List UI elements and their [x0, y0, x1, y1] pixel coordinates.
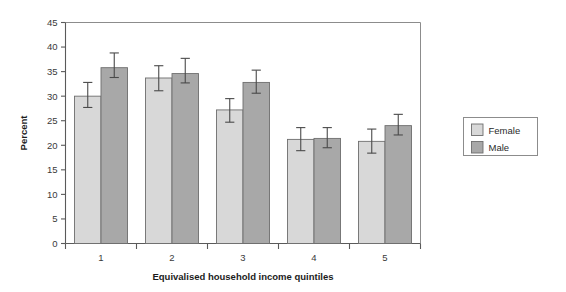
legend-swatch-female [472, 124, 484, 136]
bar-female-q3 [217, 110, 244, 244]
bar-female-q5 [359, 141, 386, 243]
y-tick-label: 35 [47, 66, 58, 77]
y-tick-label: 25 [47, 115, 58, 126]
legend: FemaleMale [464, 118, 538, 156]
y-tick-label: 40 [47, 41, 58, 52]
bar-female-q4 [288, 139, 315, 243]
x-axis-title: Equivalised household income quintiles [152, 271, 333, 282]
y-tick-label: 20 [47, 140, 58, 151]
bar-female-q1 [75, 96, 102, 243]
legend-label-male: Male [489, 142, 510, 153]
y-tick-label: 5 [52, 213, 57, 224]
bars-group [75, 68, 412, 244]
bar-male-q3 [243, 82, 270, 243]
x-tick-label: 5 [382, 252, 387, 263]
y-axis-ticks: 051015202530354045 [47, 17, 66, 249]
y-tick-label: 45 [47, 17, 58, 28]
bar-male-q5 [385, 126, 412, 244]
chart-container: 051015202530354045Percent12345Equivalise… [0, 0, 566, 292]
bar-male-q1 [101, 68, 128, 244]
x-tick-label: 1 [98, 252, 103, 263]
y-tick-label: 30 [47, 91, 58, 102]
y-tick-label: 0 [52, 238, 57, 249]
x-axis-ticks: 12345 [66, 244, 421, 263]
x-tick-label: 2 [169, 252, 174, 263]
bar-male-q4 [314, 138, 341, 243]
x-tick-label: 4 [311, 252, 316, 263]
bar-chart: 051015202530354045Percent12345Equivalise… [0, 0, 566, 292]
legend-label-female: Female [489, 125, 521, 136]
bar-female-q2 [146, 78, 173, 244]
x-tick-label: 3 [240, 252, 245, 263]
y-tick-label: 15 [47, 164, 58, 175]
y-axis-title: Percent [18, 115, 29, 151]
y-tick-label: 10 [47, 189, 58, 200]
legend-swatch-male [472, 142, 484, 154]
bar-male-q2 [172, 74, 199, 244]
